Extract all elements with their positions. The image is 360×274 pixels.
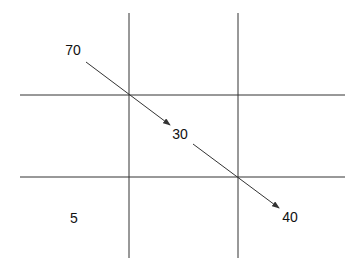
arrow-icon-70-to-30	[86, 62, 170, 125]
label-center: 30	[172, 127, 188, 141]
label-top-left: 70	[65, 43, 81, 57]
label-bottom-left: 5	[70, 211, 78, 225]
label-bottom-right: 40	[282, 210, 298, 224]
arrow-icon-30-to-40	[193, 144, 279, 208]
